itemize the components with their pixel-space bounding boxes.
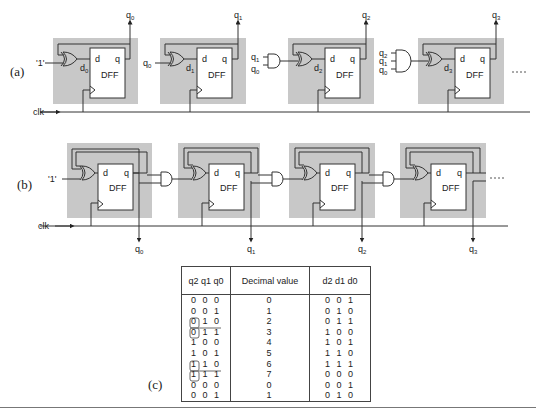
svg-text:DFF: DFF: [220, 183, 238, 193]
part-c-label: (c): [148, 377, 162, 392]
svg-text:q: q: [124, 168, 129, 178]
svg-text:d: d: [103, 168, 108, 178]
cell-d: 1 1 0: [310, 348, 371, 359]
cell-q: 0 1 0: [182, 316, 231, 327]
cell-decimal: 6: [231, 359, 310, 370]
svg-text:d: d: [95, 54, 100, 64]
cell-d: 0 0 0: [310, 369, 371, 380]
svg-text:d: d: [460, 54, 465, 64]
cell-q: 1 1 0: [182, 359, 231, 370]
table-row: 0 1 131 0 0: [182, 327, 371, 338]
clk-label-b: clk: [38, 221, 49, 231]
cell-d: 0 1 0: [310, 390, 371, 401]
svg-text:'1': '1': [48, 174, 57, 184]
svg-text:'1': '1': [36, 58, 45, 68]
svg-text:DFF: DFF: [442, 183, 460, 193]
clk-label-a: clk: [33, 107, 44, 117]
cell-decimal: 1: [231, 390, 310, 401]
svg-text:q1: q1: [234, 10, 243, 21]
cell-q: 0 0 0: [182, 295, 231, 306]
svg-text:DFF: DFF: [331, 183, 349, 193]
cell-q: 1 1 1: [182, 369, 231, 380]
cell-d: 1 0 1: [310, 337, 371, 348]
svg-text:DFF: DFF: [101, 70, 119, 80]
svg-text:d: d: [325, 168, 330, 178]
table-row: 1 0 041 0 1: [182, 337, 371, 348]
svg-text:q0: q0: [251, 64, 260, 75]
svg-text:q: q: [480, 54, 485, 64]
svg-text:DFF: DFF: [466, 70, 484, 80]
and-gate-icon: [272, 172, 283, 186]
cell-decimal: 0: [231, 295, 310, 306]
and-gate-icon: [383, 172, 394, 186]
svg-text:q2: q2: [358, 244, 367, 255]
cell-decimal: 0: [231, 380, 310, 391]
svg-text:q2: q2: [362, 10, 371, 21]
cell-q: 1 0 0: [182, 337, 231, 348]
cell-d: 1 1 1: [310, 359, 371, 370]
truth-table: q2 q1 q0 Decimal value d2 d1 d0 0 0 000 …: [181, 266, 371, 402]
cell-d: 0 1 0: [310, 306, 371, 317]
and-gate-icon: [268, 54, 280, 68]
svg-text:q0: q0: [143, 58, 152, 69]
cell-d: 0 1 1: [310, 316, 371, 327]
header-d: d2 d1 d0: [310, 267, 371, 295]
svg-text:q: q: [222, 54, 227, 64]
table-row: 0 0 110 1 0: [182, 390, 371, 401]
part-b-label: (b): [17, 177, 32, 192]
table-row: 0 0 110 1 0: [182, 306, 371, 317]
cell-q: 1 0 1: [182, 348, 231, 359]
cell-decimal: 2: [231, 316, 310, 327]
svg-text:DFF: DFF: [208, 70, 226, 80]
table-row: 0 0 000 0 1: [182, 380, 371, 391]
cell-decimal: 5: [231, 348, 310, 359]
cell-q: 0 0 1: [182, 306, 231, 317]
header-q: q2 q1 q0: [182, 267, 231, 295]
and-gate-icon: [396, 50, 411, 72]
svg-text:q: q: [346, 168, 351, 178]
svg-text:d: d: [202, 54, 207, 64]
table-row: 1 1 170 0 0: [182, 369, 371, 380]
svg-text:q: q: [115, 54, 120, 64]
cell-d: 0 0 1: [310, 380, 371, 391]
cell-decimal: 4: [231, 337, 310, 348]
table-row: 0 0 000 0 1: [182, 295, 371, 306]
table-row: 1 0 151 1 0: [182, 348, 371, 359]
cell-q: 0 1 1: [182, 327, 231, 338]
svg-text:q: q: [350, 54, 355, 64]
svg-text:d: d: [214, 168, 219, 178]
svg-text:q1: q1: [251, 52, 260, 63]
and-gate-icon: [161, 172, 172, 186]
cell-q: 0 0 0: [182, 380, 231, 391]
bottom-divider: [0, 407, 536, 408]
svg-text:q3: q3: [469, 244, 478, 255]
svg-text:DFF: DFF: [109, 183, 127, 193]
cell-decimal: 3: [231, 327, 310, 338]
part-b: (b) clk '1' dq DFF q0: [17, 143, 508, 255]
svg-text:q: q: [457, 168, 462, 178]
svg-text:q1: q1: [247, 244, 256, 255]
svg-text:q0: q0: [135, 244, 144, 255]
svg-text:q3: q3: [492, 10, 501, 21]
cell-q: 0 0 1: [182, 390, 231, 401]
cell-decimal: 7: [231, 369, 310, 380]
svg-text:q: q: [235, 168, 240, 178]
part-a: (a) clk d q DFF '1' d0 q0: [10, 10, 530, 117]
header-decimal: Decimal value: [231, 267, 310, 295]
table-row: 1 1 061 1 1: [182, 359, 371, 370]
cell-d: 0 0 1: [310, 295, 371, 306]
svg-text:DFF: DFF: [336, 70, 354, 80]
svg-text:d: d: [436, 168, 441, 178]
cell-decimal: 1: [231, 306, 310, 317]
svg-text:d: d: [330, 54, 335, 64]
svg-text:q0: q0: [126, 10, 135, 21]
cell-d: 1 0 0: [310, 327, 371, 338]
part-a-label: (a): [10, 64, 24, 79]
table-row: 0 1 020 1 1: [182, 316, 371, 327]
